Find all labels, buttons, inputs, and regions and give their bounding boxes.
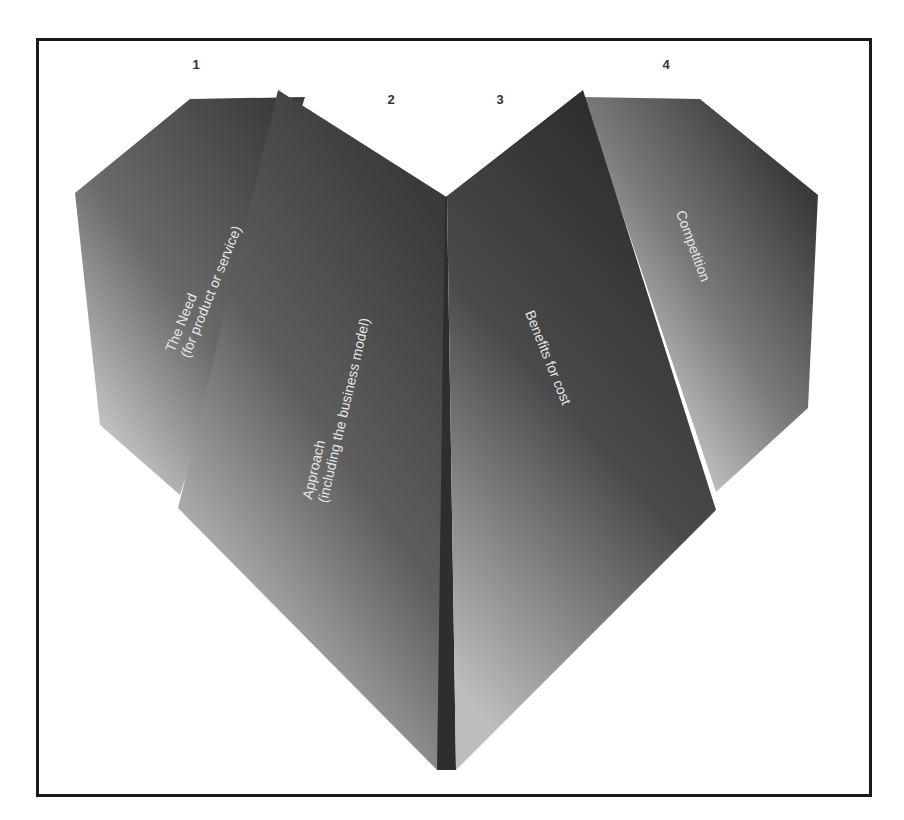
panel-1-number: 1 xyxy=(192,57,199,72)
panel-2-number: 2 xyxy=(387,92,394,107)
panel-4-number: 4 xyxy=(662,57,669,72)
heart-diagram xyxy=(0,0,904,820)
panel-3-number: 3 xyxy=(496,92,503,107)
